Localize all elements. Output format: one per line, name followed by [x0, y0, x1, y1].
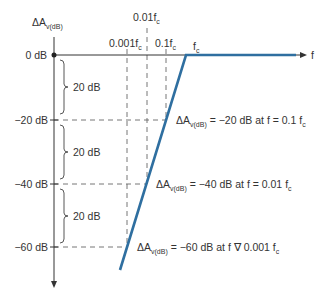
brace-1 [60, 60, 68, 114]
brace-3 [60, 189, 68, 243]
annotation-minus20db: ΔAv(dB) = −20 dB at f = 0.1 fc [176, 114, 306, 129]
y-tick-label-0db: 0 dB [25, 49, 47, 61]
brace-2 [60, 125, 68, 179]
x-label-01fc: 0.1fc [155, 37, 177, 51]
y-axis-arrow-icon [51, 281, 57, 288]
brace-label-1: 20 dB [73, 81, 100, 93]
y-tick-label-minus40db: −40 dB [14, 178, 48, 190]
x-axis-arrow-icon [300, 52, 307, 58]
brace-label-3: 20 dB [73, 210, 100, 222]
x-axis-label: f [311, 49, 314, 61]
annotation-minus60db: ΔAv(dB) = −60 dB at f ∇ 0.001 fc [137, 241, 280, 256]
x-label-001fc: 0.01fc [133, 11, 160, 25]
brace-label-2: 20 dB [73, 146, 100, 158]
x-label-fc: fc [193, 40, 200, 54]
horizontal-guides [54, 120, 166, 247]
braces [60, 60, 68, 243]
y-tick-label-minus20db: −20 dB [14, 114, 48, 126]
response-curve [120, 55, 296, 270]
annotation-minus40db: ΔAv(dB) = −40 dB at f = 0.01 fc [156, 178, 292, 193]
y-tick-label-minus60db: −60 dB [14, 241, 48, 253]
frequency-response-diagram: ΔAv(dB) f 0 dB −20 dB −40 dB −60 dB 0.00… [0, 0, 329, 302]
x-label-0001fc: 0.001fc [109, 37, 142, 51]
origin-dot [52, 53, 57, 58]
y-axis-label: ΔAv(dB) [32, 16, 63, 31]
